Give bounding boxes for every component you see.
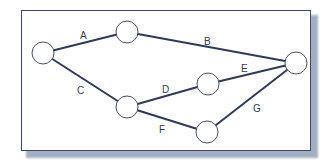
edge-label-g: G <box>253 103 261 114</box>
node-3 <box>116 96 138 118</box>
node-6 <box>285 52 307 74</box>
edge-f <box>127 107 207 132</box>
node-5 <box>196 121 218 143</box>
edge-label-b: B <box>204 36 211 47</box>
network-diagram: A B C D E F G <box>0 0 332 167</box>
node-1 <box>32 42 54 64</box>
edge-label-f: F <box>159 124 165 135</box>
edge-label-d: D <box>162 84 169 95</box>
node-2 <box>116 21 138 43</box>
edge-b <box>127 32 296 63</box>
edge-label-c: C <box>77 85 84 96</box>
edge-label-e: E <box>241 63 248 74</box>
node-4 <box>197 73 219 95</box>
edge-label-a: A <box>80 30 87 41</box>
edge-c <box>43 53 127 107</box>
